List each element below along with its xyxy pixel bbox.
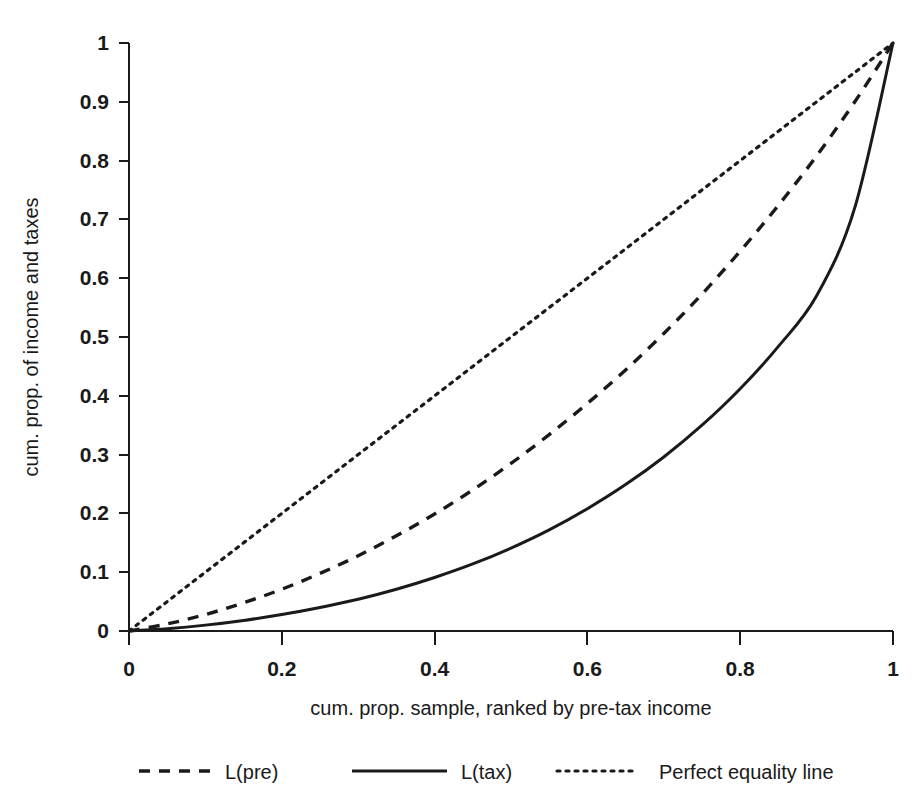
x-axis-group: 00.20.40.60.81 cum. prop. sample, ranked… (123, 631, 899, 719)
data-series-group (129, 43, 893, 631)
y-tick-label: 1 (97, 31, 109, 54)
y-tick-label: 0.5 (80, 325, 110, 348)
x-tick-label: 0.4 (420, 657, 450, 680)
y-tick-label: 0 (97, 619, 109, 642)
y-tick-label: 0.2 (80, 501, 109, 524)
y-axis-title: cum. prop. of income and taxes (20, 197, 42, 476)
chart-svg: 00.10.20.30.40.50.60.70.80.91 cum. prop.… (0, 0, 923, 800)
y-tick-labels: 00.10.20.30.40.50.60.70.80.91 (80, 31, 110, 642)
x-tick-labels: 00.20.40.60.81 (123, 657, 899, 680)
y-tick-label: 0.1 (80, 560, 110, 583)
series-line-perfect-equality-line (129, 43, 893, 631)
y-tick-label: 0.3 (80, 443, 109, 466)
x-tick-marks (129, 631, 893, 645)
legend-label-2: Perfect equality line (659, 761, 834, 783)
x-axis-title: cum. prop. sample, ranked by pre-tax inc… (310, 697, 711, 719)
chart-legend: L(pre)L(tax)Perfect equality line (139, 761, 834, 783)
legend-label-1: L(tax) (461, 761, 512, 783)
y-tick-marks (119, 43, 129, 631)
legend-label-0: L(pre) (225, 761, 278, 783)
x-tick-label: 0.6 (573, 657, 602, 680)
y-axis-group: 00.10.20.30.40.50.60.70.80.91 cum. prop.… (20, 31, 129, 642)
y-tick-label: 0.6 (80, 266, 109, 289)
x-tick-label: 0.8 (726, 657, 756, 680)
lorenz-curve-chart: 00.10.20.30.40.50.60.70.80.91 cum. prop.… (0, 0, 923, 800)
x-tick-label: 0.2 (267, 657, 296, 680)
y-tick-label: 0.8 (80, 149, 110, 172)
y-tick-label: 0.4 (80, 384, 110, 407)
x-tick-label: 1 (887, 657, 899, 680)
x-tick-label: 0 (123, 657, 135, 680)
y-tick-label: 0.7 (80, 207, 109, 230)
y-tick-label: 0.9 (80, 90, 109, 113)
